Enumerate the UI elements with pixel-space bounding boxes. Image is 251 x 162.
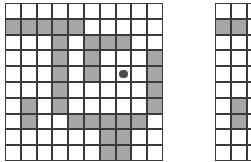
grid-cell-free[interactable] <box>247 66 251 82</box>
grid-cell-free[interactable] <box>215 50 231 66</box>
grid-cell-free[interactable] <box>215 145 231 161</box>
grid-cell-occupied[interactable] <box>52 82 68 98</box>
grid-cell-free[interactable] <box>84 19 100 35</box>
grid-cell-free[interactable] <box>247 19 251 35</box>
grid-cell-occupied[interactable] <box>5 19 21 35</box>
grid-cell-occupied[interactable] <box>52 50 68 66</box>
grid-cell-free[interactable] <box>247 35 251 51</box>
grid-cell-free[interactable] <box>147 35 163 51</box>
grid-cell-occupied[interactable] <box>84 50 100 66</box>
grid-cell-occupied[interactable] <box>84 35 100 51</box>
grid-cell-free[interactable] <box>131 19 147 35</box>
grid-cell-free[interactable] <box>147 19 163 35</box>
grid-cell-free[interactable] <box>116 50 132 66</box>
grid-cell-free[interactable] <box>247 82 251 98</box>
grid-cell-free[interactable] <box>52 3 68 19</box>
grid-cell-free[interactable] <box>5 129 21 145</box>
grid-cell-occupied[interactable] <box>21 98 37 114</box>
grid-cell-free[interactable] <box>68 66 84 82</box>
grid-cell-free[interactable] <box>116 3 132 19</box>
grid-cell-free[interactable] <box>21 35 37 51</box>
grid-cell-free[interactable] <box>5 145 21 161</box>
grid-cell-occupied[interactable] <box>231 114 247 130</box>
grid-cell-free[interactable] <box>68 35 84 51</box>
grid-cell-free[interactable] <box>247 114 251 130</box>
grid-cell-free[interactable] <box>147 114 163 130</box>
grid-cell-free[interactable] <box>131 98 147 114</box>
grid-cell-free[interactable] <box>231 129 247 145</box>
grid-cell-free[interactable] <box>37 3 53 19</box>
grid-cell-occupied[interactable] <box>215 19 231 35</box>
grid-cell-free[interactable] <box>21 129 37 145</box>
grid-cell-free[interactable] <box>21 3 37 19</box>
grid-cell-free[interactable] <box>37 98 53 114</box>
grid-cell-free[interactable] <box>131 50 147 66</box>
grid-cell-free[interactable] <box>52 145 68 161</box>
grid-cell-free[interactable] <box>215 66 231 82</box>
grid-cell-free[interactable] <box>84 129 100 145</box>
grid-cell-free[interactable] <box>215 114 231 130</box>
grid-cell-free[interactable] <box>37 82 53 98</box>
grid-cell-free[interactable] <box>231 145 247 161</box>
grid-cell-free[interactable] <box>215 3 231 19</box>
grid-cell-free[interactable] <box>37 114 53 130</box>
grid-cell-free[interactable] <box>147 129 163 145</box>
grid-cell-free[interactable] <box>215 98 231 114</box>
grid-cell-free[interactable] <box>21 82 37 98</box>
grid-cell-free[interactable] <box>247 129 251 145</box>
grid-cell-free[interactable] <box>68 3 84 19</box>
grid-cell-free[interactable] <box>131 129 147 145</box>
grid-cell-free[interactable] <box>231 66 247 82</box>
grid-cell-free[interactable] <box>37 129 53 145</box>
grid-cell-occupied[interactable] <box>52 98 68 114</box>
grid-cell-occupied[interactable] <box>231 19 247 35</box>
grid-cell-free[interactable] <box>84 3 100 19</box>
grid-cell-free[interactable] <box>231 3 247 19</box>
grid-cell-occupied[interactable] <box>100 114 116 130</box>
grid-cell-free[interactable] <box>21 50 37 66</box>
grid-cell-occupied[interactable] <box>68 19 84 35</box>
grid-cell-free[interactable] <box>5 98 21 114</box>
grid-cell-occupied[interactable] <box>116 35 132 51</box>
grid-cell-free[interactable] <box>5 114 21 130</box>
grid-cell-occupied[interactable] <box>84 66 100 82</box>
grid-cell-occupied[interactable] <box>68 114 84 130</box>
grid-cell-occupied[interactable] <box>100 145 116 161</box>
grid-cell-free[interactable] <box>5 35 21 51</box>
grid-cell-free[interactable] <box>68 145 84 161</box>
grid-cell-free[interactable] <box>131 66 147 82</box>
grid-cell-occupied[interactable] <box>116 145 132 161</box>
grid-cell-free[interactable] <box>5 82 21 98</box>
grid-cell-free[interactable] <box>100 3 116 19</box>
grid-cell-free[interactable] <box>100 82 116 98</box>
grid-cell-free[interactable] <box>84 145 100 161</box>
grid-cell-occupied[interactable] <box>84 114 100 130</box>
grid-cell-free[interactable] <box>215 82 231 98</box>
grid-cell-free[interactable] <box>147 145 163 161</box>
grid-cell-free[interactable] <box>131 145 147 161</box>
grid-cell-free[interactable] <box>231 82 247 98</box>
grid-cell-free[interactable] <box>247 50 251 66</box>
grid-cell-free[interactable] <box>231 50 247 66</box>
grid-cell-occupied[interactable] <box>52 19 68 35</box>
grid-cell-free[interactable] <box>37 145 53 161</box>
grid-cell-occupied[interactable] <box>100 129 116 145</box>
grid-cell-free[interactable] <box>52 129 68 145</box>
grid-cell-free[interactable] <box>68 129 84 145</box>
grid-cell-free[interactable] <box>5 66 21 82</box>
grid-cell-occupied[interactable] <box>116 129 132 145</box>
grid-cell-free[interactable] <box>37 35 53 51</box>
grid-cell-occupied[interactable] <box>147 50 163 66</box>
grid-cell-occupied[interactable] <box>52 66 68 82</box>
grid-cell-occupied[interactable] <box>100 35 116 51</box>
grid-cell-free[interactable] <box>247 3 251 19</box>
grid-cell-free[interactable] <box>84 98 100 114</box>
grid-cell-free[interactable] <box>68 50 84 66</box>
grid-cell-free[interactable] <box>100 98 116 114</box>
grid-cell-occupied[interactable] <box>131 114 147 130</box>
grid-cell-free[interactable] <box>100 66 116 82</box>
grid-cell-occupied[interactable] <box>147 82 163 98</box>
grid-cell-free[interactable] <box>116 82 132 98</box>
grid-cell-free[interactable] <box>247 145 251 161</box>
grid-cell-free[interactable] <box>147 3 163 19</box>
